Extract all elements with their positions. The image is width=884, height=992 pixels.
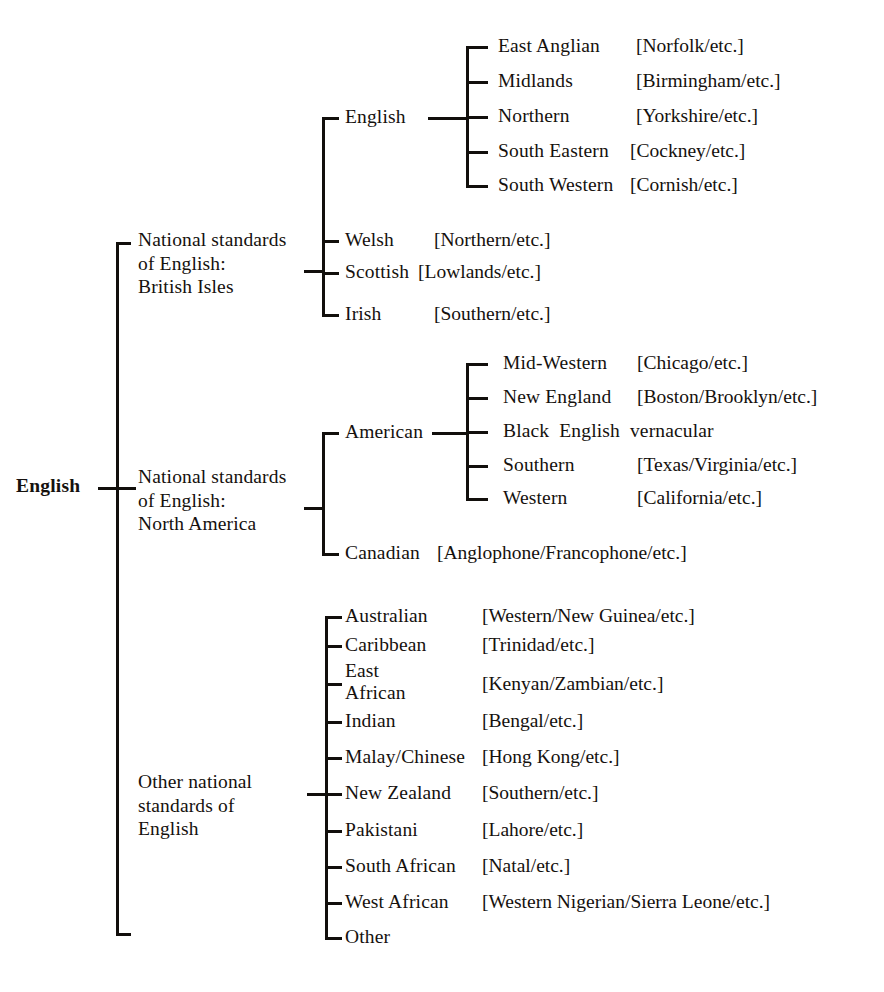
node-english-dialects: English — [345, 105, 406, 128]
node-new-zealand: New Zealand — [345, 781, 451, 804]
node-south-african: South African — [345, 854, 456, 877]
branch3-tick-indian — [325, 721, 342, 724]
node-scottish: Scottish — [345, 260, 409, 283]
node-black-english-vernacular: Black English vernacular — [503, 419, 714, 442]
american-subtree-stem — [432, 432, 468, 435]
branch3-tick-other — [325, 937, 342, 940]
node-pakistani: Pakistani — [345, 818, 418, 841]
english-subtree-stem — [428, 117, 468, 120]
branch1-tick-english — [322, 117, 339, 120]
gloss-malay-chinese: [Hong Kong/etc.] — [482, 745, 620, 768]
node-new-england: New England — [503, 385, 611, 408]
american-tick-western — [466, 498, 488, 501]
english-tick-northern — [466, 116, 488, 119]
gloss-welsh: [Northern/etc.] — [434, 228, 550, 251]
gloss-east-anglian: [Norfolk/etc.] — [636, 34, 744, 57]
node-south-western: South Western — [498, 173, 613, 196]
root-label: English — [16, 474, 80, 497]
branch3-tick-new-zealand — [325, 793, 342, 796]
node-western-american: Western — [503, 486, 567, 509]
tree-diagram: English National standards of English: B… — [0, 0, 884, 992]
branch3-tick-east-african — [325, 683, 342, 686]
branch-stem-other-national — [307, 793, 327, 796]
node-australian: Australian — [345, 604, 428, 627]
root-stem — [98, 487, 118, 490]
root-tick-other-national — [116, 933, 131, 936]
node-mid-western: Mid-Western — [503, 351, 607, 374]
gloss-new-england: [Boston/Brooklyn/etc.] — [637, 385, 817, 408]
branch-stem-north-america — [304, 507, 324, 510]
branch-spine-british-isles — [322, 117, 325, 317]
branch1-tick-welsh — [322, 240, 339, 243]
gloss-australian: [Western/New Guinea/etc.] — [482, 604, 695, 627]
gloss-caribbean: [Trinidad/etc.] — [482, 633, 594, 656]
branch3-tick-pakistani — [325, 830, 342, 833]
branch3-tick-caribbean — [325, 645, 342, 648]
node-west-african: West African — [345, 890, 449, 913]
branch-label-north-america: National standards of English: North Ame… — [138, 465, 286, 536]
gloss-south-eastern: [Cockney/etc.] — [630, 139, 745, 162]
branch3-tick-malay-chinese — [325, 757, 342, 760]
root-spine — [116, 242, 119, 936]
gloss-southern-american: [Texas/Virginia/etc.] — [637, 453, 797, 476]
gloss-canadian: [Anglophone/Francophone/etc.] — [437, 541, 687, 564]
root-tick-british-isles — [116, 242, 131, 245]
branch2-tick-american — [322, 432, 339, 435]
node-east-anglian: East Anglian — [498, 34, 600, 57]
gloss-pakistani: [Lahore/etc.] — [482, 818, 583, 841]
branch1-tick-scottish — [322, 272, 339, 275]
english-tick-south-eastern — [466, 151, 488, 154]
gloss-new-zealand: [Southern/etc.] — [482, 781, 598, 804]
node-caribbean: Caribbean — [345, 633, 426, 656]
english-tick-south-western — [466, 185, 488, 188]
american-tick-southern — [466, 465, 488, 468]
branch2-tick-canadian — [322, 553, 339, 556]
gloss-scottish: [Lowlands/etc.] — [418, 260, 541, 283]
node-american: American — [345, 420, 423, 443]
american-tick-mid-western — [466, 363, 488, 366]
gloss-midlands: [Birmingham/etc.] — [636, 69, 781, 92]
american-tick-new-england — [466, 397, 488, 400]
node-irish: Irish — [345, 302, 382, 325]
root-tick-north-america — [116, 487, 136, 490]
branch3-tick-west-african — [325, 902, 342, 905]
gloss-mid-western: [Chicago/etc.] — [637, 351, 748, 374]
gloss-south-african: [Natal/etc.] — [482, 854, 570, 877]
english-tick-midlands — [466, 81, 488, 84]
branch-label-other-national: Other national standards of English — [138, 770, 252, 841]
node-malay-chinese: Malay/Chinese — [345, 745, 465, 768]
node-other: Other — [345, 925, 390, 948]
node-east-african: East African — [345, 660, 406, 704]
branch1-tick-irish — [322, 314, 339, 317]
node-southern-american: Southern — [503, 453, 575, 476]
branch-spine-other-national — [325, 616, 328, 940]
gloss-south-western: [Cornish/etc.] — [630, 173, 738, 196]
node-indian: Indian — [345, 709, 396, 732]
node-south-eastern: South Eastern — [498, 139, 609, 162]
english-tick-east-anglian — [466, 46, 488, 49]
gloss-east-african: [Kenyan/Zambian/etc.] — [482, 672, 663, 695]
gloss-northern: [Yorkshire/etc.] — [636, 104, 758, 127]
gloss-western-american: [California/etc.] — [637, 486, 762, 509]
branch-stem-british-isles — [304, 270, 324, 273]
branch-spine-north-america — [322, 432, 325, 556]
node-welsh: Welsh — [345, 228, 394, 251]
branch3-tick-australian — [325, 616, 342, 619]
branch-label-british-isles: National standards of English: British I… — [138, 228, 286, 299]
gloss-west-african: [Western Nigerian/Sierra Leone/etc.] — [482, 890, 770, 913]
branch3-tick-south-african — [325, 866, 342, 869]
node-midlands: Midlands — [498, 69, 573, 92]
gloss-irish: [Southern/etc.] — [434, 302, 550, 325]
american-tick-black-english — [466, 431, 488, 434]
node-canadian: Canadian — [345, 541, 420, 564]
node-northern: Northern — [498, 104, 570, 127]
gloss-indian: [Bengal/etc.] — [482, 709, 583, 732]
